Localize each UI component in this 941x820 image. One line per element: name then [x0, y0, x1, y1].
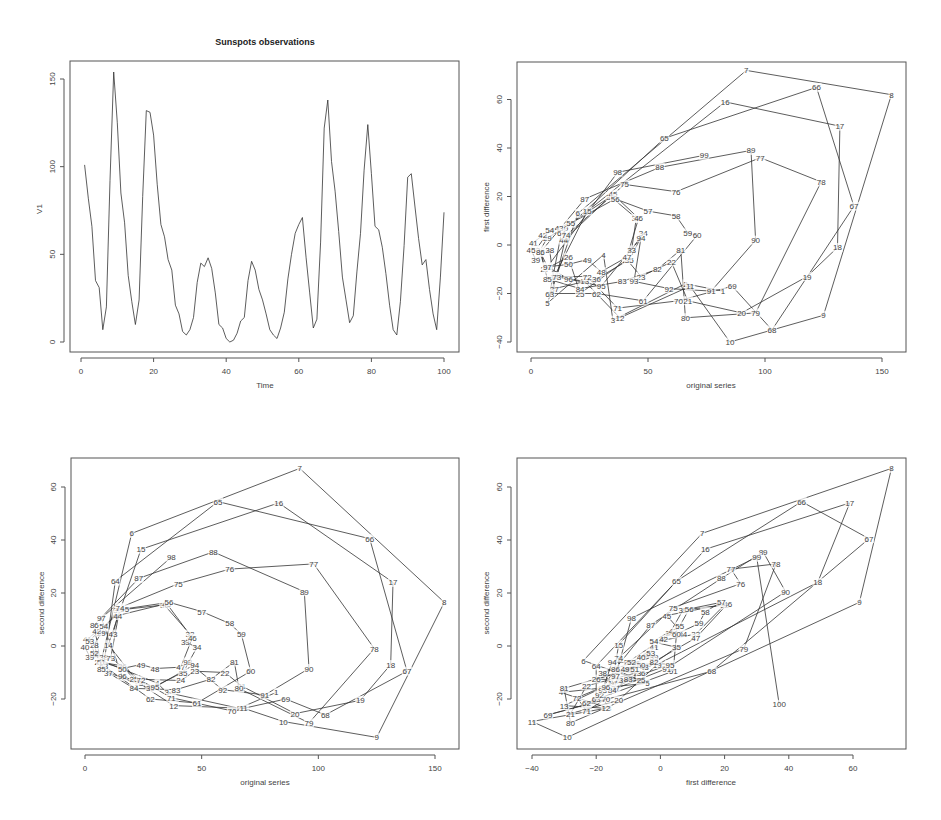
point-label: 54 [99, 622, 108, 631]
point-label: 17 [389, 578, 398, 587]
point-label: 47 [622, 253, 631, 262]
point-label: 92 [218, 686, 227, 695]
chart-title: Sunspots observations [215, 37, 315, 47]
point-label: 46 [634, 214, 643, 223]
point-label: 92 [665, 285, 674, 294]
point-label: 77 [756, 154, 765, 163]
y-axis-title: second difference [482, 571, 491, 635]
point-label: 64 [111, 577, 120, 586]
point-label: 62 [146, 695, 155, 704]
point-label: 47 [691, 634, 700, 643]
point-label: 94 [637, 234, 646, 243]
point-label: 10 [563, 733, 572, 742]
point-label: 68 [321, 711, 330, 720]
point-label: 12 [615, 314, 624, 323]
point-labels: 2345678910111213141516171819202122232425… [527, 464, 894, 742]
point-label: 100 [772, 700, 786, 709]
point-label: 94 [608, 658, 617, 667]
point-label: 90 [751, 236, 760, 245]
point-label: 56 [685, 605, 694, 614]
x-tick-label: 50 [197, 764, 206, 773]
x-tick-label: 150 [875, 367, 889, 376]
point-label: 74 [116, 604, 125, 613]
point-label: 9 [857, 598, 862, 607]
point-label: 77 [727, 565, 736, 574]
point-label: 59 [237, 630, 246, 639]
x-tick-label: 0 [658, 764, 663, 773]
y-tick-label: 100 [48, 159, 57, 173]
point-label: 58 [701, 608, 710, 617]
point-label: 5 [545, 299, 550, 308]
point-label: 42 [659, 635, 668, 644]
point-label: 46 [188, 634, 197, 643]
point-label: 67 [865, 535, 874, 544]
y-tick-label: −20 [49, 692, 58, 706]
point-label: 80 [681, 314, 690, 323]
y-tick-label: 40 [495, 143, 504, 152]
point-label: 68 [768, 326, 777, 335]
point-label: 8 [889, 91, 894, 100]
point-label: 82 [653, 265, 662, 274]
x-tick-label: 80 [367, 367, 376, 376]
y-tick-label: 0 [495, 643, 504, 648]
point-label: 43 [109, 630, 118, 639]
point-label: 95 [666, 661, 675, 670]
point-label: 22 [582, 682, 591, 691]
y-tick-label: 20 [49, 588, 58, 597]
point-label: 82 [207, 675, 216, 684]
point-label: 48 [151, 665, 160, 674]
point-label: 98 [613, 168, 622, 177]
y-axis-title: second difference [37, 571, 46, 635]
point-label: 9 [821, 311, 826, 320]
point-label: 57 [644, 207, 653, 216]
point-label: 20 [291, 710, 300, 719]
y-tick-label: 20 [495, 588, 504, 597]
point-label: 57 [197, 608, 206, 617]
point-label: 78 [772, 560, 781, 569]
panel-second-difference-vs-original: 050100150−200204060 12345678910111213141… [37, 458, 459, 787]
point-label: 49 [583, 256, 592, 265]
point-label: 7 [744, 66, 749, 75]
point-label: 52 [627, 658, 636, 667]
point-label: 58 [225, 619, 234, 628]
point-label: 15 [614, 641, 623, 650]
figure-canvas: Sunspots observations 020406080100050100… [0, 0, 941, 820]
point-label: 73 [552, 273, 561, 282]
point-label: 84 [576, 285, 585, 294]
point-label: 10 [279, 718, 288, 727]
point-label: 78 [370, 645, 379, 654]
point-label: 22 [221, 669, 230, 678]
y-tick-label: −20 [495, 692, 504, 706]
point-label: 99 [752, 553, 761, 562]
point-label: 81 [230, 658, 239, 667]
panel-time-series: Sunspots observations 020406080100050100… [35, 37, 459, 390]
point-label: 63 [545, 290, 554, 299]
point-label: 38 [545, 246, 554, 255]
point-label: 11 [686, 282, 695, 291]
point-label: 59 [694, 619, 703, 628]
point-label: 19 [356, 696, 365, 705]
point-label: 60 [246, 667, 255, 676]
point-label: 11 [528, 718, 537, 727]
y-tick-label: 0 [48, 339, 57, 344]
point-label: 67 [403, 667, 412, 676]
point-label: 56 [611, 195, 620, 204]
point-label: 70 [674, 297, 683, 306]
point-label: 9 [374, 733, 379, 742]
point-label: 90 [305, 665, 314, 674]
y-tick-label: 60 [495, 482, 504, 491]
point-label: 6 [129, 529, 134, 538]
point-label: 93 [630, 277, 639, 286]
x-axis-title: original series [686, 381, 735, 390]
point-label: 85 [97, 665, 106, 674]
point-label: 69 [728, 282, 737, 291]
point-label: 7 [700, 529, 705, 538]
y-axis-title: V1 [35, 204, 44, 214]
point-label: 99 [700, 151, 709, 160]
point-label: 34 [193, 643, 202, 652]
point-label: 81 [676, 246, 685, 255]
point-label: 52 [90, 649, 99, 658]
x-tick-label: 50 [644, 367, 653, 376]
x-tick-label: 40 [784, 764, 793, 773]
point-label: 65 [672, 577, 681, 586]
